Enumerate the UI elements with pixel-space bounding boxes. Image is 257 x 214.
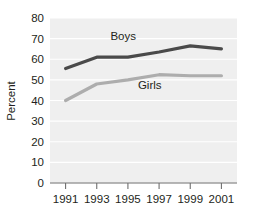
x-axis-tick-label: 1995 [115, 193, 141, 205]
y-axis-tick-label: 20 [31, 136, 44, 148]
series-label-boys: Boys [110, 30, 136, 42]
chart-canvas: 01020304050607080 1991199319951997199920… [0, 0, 257, 214]
line-chart: 01020304050607080 1991199319951997199920… [0, 0, 257, 214]
y-axis-tick-label: 80 [31, 12, 44, 24]
y-axis-tick-labels: 01020304050607080 [31, 12, 44, 189]
series-label-girls: Girls [138, 79, 162, 91]
x-axis-tick-label: 1991 [53, 193, 79, 205]
y-axis-title: Percent [5, 80, 17, 120]
y-axis-tick-label: 30 [31, 115, 44, 127]
y-axis-tick-label: 70 [31, 33, 44, 45]
y-axis-tick-label: 0 [38, 177, 44, 189]
y-axis-tick-label: 40 [31, 95, 44, 107]
y-axis-tick-label: 50 [31, 74, 44, 86]
x-axis-tick-label: 1993 [84, 193, 110, 205]
y-axis-tick-label: 60 [31, 53, 44, 65]
y-axis-tick-label: 10 [31, 156, 44, 168]
x-axis-tick-label: 2001 [209, 193, 235, 205]
x-axis-tick-label: 1997 [146, 193, 172, 205]
x-axis-tick-label: 1999 [177, 193, 203, 205]
